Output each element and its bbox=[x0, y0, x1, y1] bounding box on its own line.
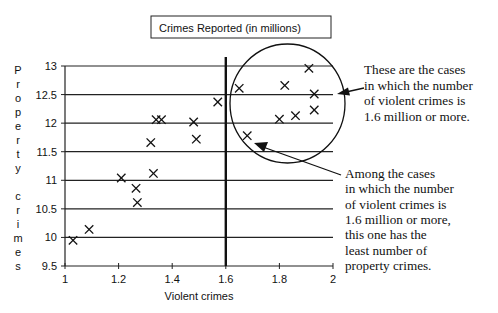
annotation-line: in which the number bbox=[364, 78, 473, 93]
x-tick-labels: 11.21.41.61.82 bbox=[62, 273, 336, 285]
annotation-line: in which the number bbox=[345, 181, 454, 196]
grid-lines bbox=[65, 66, 333, 237]
annotation-line: 1.6 million or more, bbox=[345, 212, 451, 227]
x-tick-label: 1.2 bbox=[111, 273, 126, 285]
annotation-line: least number of bbox=[345, 243, 428, 258]
data-point bbox=[281, 81, 289, 89]
data-point bbox=[235, 84, 243, 92]
y-tick-labels: 9.51010.51111.51212.513 bbox=[36, 60, 57, 272]
y-tick-label: 9.5 bbox=[42, 260, 57, 272]
data-point bbox=[133, 198, 141, 206]
y-axis-label-letter: p bbox=[15, 106, 21, 118]
y-tick-label: 12 bbox=[45, 117, 57, 129]
y-axis-label-letter: m bbox=[13, 232, 22, 244]
arrow-to-min-point bbox=[254, 142, 341, 175]
y-tick-label: 12.5 bbox=[36, 89, 57, 101]
y-axis-label-letter: e bbox=[15, 246, 21, 258]
annotation-line: this one has the bbox=[345, 227, 427, 242]
y-axis-label-letter: r bbox=[16, 134, 20, 146]
annotation-line: Among the cases bbox=[345, 166, 435, 181]
data-point bbox=[192, 135, 200, 143]
annotation-line: 1.6 million or more. bbox=[364, 109, 470, 124]
y-axis-label-letter: s bbox=[15, 260, 21, 272]
data-point bbox=[117, 174, 125, 182]
y-tick-label: 13 bbox=[45, 60, 57, 72]
annotation-line: property crimes. bbox=[345, 258, 431, 273]
y-axis-label-letter: r bbox=[16, 204, 20, 216]
data-point bbox=[132, 184, 140, 192]
x-tick-label: 2 bbox=[330, 273, 336, 285]
annotation-circle-note: These are the casesin which the numberof… bbox=[364, 62, 473, 124]
y-axis-label-letter: i bbox=[17, 218, 19, 230]
y-axis-label-letter: c bbox=[15, 190, 21, 202]
annotation-min-note: Among the casesin which the numberof vio… bbox=[345, 166, 454, 273]
y-axis-label-letter: r bbox=[16, 78, 20, 90]
y-axis-label-letter: P bbox=[14, 64, 21, 76]
data-point bbox=[243, 132, 251, 140]
data-point bbox=[291, 112, 299, 120]
x-tick-label: 1.6 bbox=[218, 273, 233, 285]
y-tick-label: 10 bbox=[45, 231, 57, 243]
y-tick-label: 10.5 bbox=[36, 203, 57, 215]
data-point bbox=[85, 225, 93, 233]
scatter-chart: Crimes Reported (in millions) 9.51010.51… bbox=[0, 0, 498, 313]
y-axis-label-letter: y bbox=[15, 162, 21, 174]
annotation-line: These are the cases bbox=[364, 62, 465, 77]
y-axis-label-letter: e bbox=[15, 120, 21, 132]
axes bbox=[61, 66, 333, 269]
data-point bbox=[275, 115, 283, 123]
data-point bbox=[214, 98, 222, 106]
chart-title-box: Crimes Reported (in millions) bbox=[151, 16, 331, 38]
data-point bbox=[305, 64, 313, 72]
data-point bbox=[310, 106, 318, 114]
y-axis-label-letter: t bbox=[16, 148, 19, 160]
arrow-to-circle bbox=[337, 88, 364, 96]
data-point bbox=[189, 118, 197, 126]
data-point bbox=[149, 169, 157, 177]
x-tick-label: 1 bbox=[62, 273, 68, 285]
y-tick-label: 11 bbox=[46, 174, 57, 186]
y-axis-label-letter: o bbox=[15, 92, 21, 104]
chart-title: Crimes Reported (in millions) bbox=[159, 22, 301, 34]
data-points bbox=[69, 64, 319, 244]
x-tick-label: 1.4 bbox=[165, 273, 180, 285]
data-point bbox=[147, 138, 155, 146]
annotation-line: of violent crimes is bbox=[345, 197, 446, 212]
y-axis-label: Propertycrimes bbox=[13, 64, 22, 272]
highlight-circle bbox=[230, 44, 345, 163]
x-tick-label: 1.8 bbox=[272, 273, 287, 285]
x-axis-label: Violent crimes bbox=[165, 290, 234, 302]
y-tick-label: 11.5 bbox=[36, 146, 57, 158]
annotation-line: of violent crimes is bbox=[364, 93, 465, 108]
